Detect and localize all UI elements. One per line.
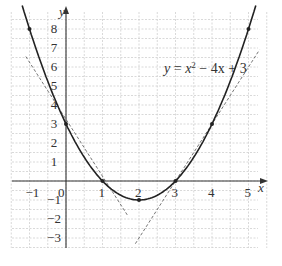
eq-equals: = xyxy=(170,61,185,76)
curve-point xyxy=(64,122,68,126)
x-tick-label: 4 xyxy=(208,185,215,200)
x-axis-label: x xyxy=(257,180,264,195)
x-tick-label: 1 xyxy=(99,185,106,200)
curve-point xyxy=(174,179,178,183)
y-tick-label: 6 xyxy=(51,59,58,74)
y-axis-label: y xyxy=(57,4,65,19)
y-tick-label: 2 xyxy=(51,135,58,150)
y-tick-label: 4 xyxy=(51,97,58,112)
equation-label: y = x2 − 4x + 3 xyxy=(162,60,247,76)
curve-point xyxy=(247,27,251,31)
tick-labels: −11234587654321−1−2−3 xyxy=(26,21,252,245)
y-tick-label: 1 xyxy=(51,154,58,169)
x-tick-label: 3 xyxy=(172,185,179,200)
x-tick-label: 2 xyxy=(135,185,142,200)
y-tick-label: 7 xyxy=(51,40,58,55)
y-tick-label: −3 xyxy=(47,230,61,245)
curve-point xyxy=(101,179,105,183)
y-tick-label: 8 xyxy=(51,21,58,36)
tangent-line xyxy=(135,50,259,244)
eq-rest: − 4x + 3 xyxy=(196,61,247,76)
x-tick-label: −1 xyxy=(26,185,40,200)
y-tick-label: −2 xyxy=(47,211,61,226)
x-tick-label: 5 xyxy=(245,185,252,200)
curve-point xyxy=(210,122,214,126)
origin-label: 0 xyxy=(58,185,65,200)
graph: −11234587654321−1−2−3 y x 0 y = x2 − 4x … xyxy=(0,0,282,266)
tangent-line xyxy=(26,57,128,217)
curve-point xyxy=(28,27,32,31)
y-tick-label: 5 xyxy=(51,78,58,93)
y-tick-label: 3 xyxy=(51,116,58,131)
